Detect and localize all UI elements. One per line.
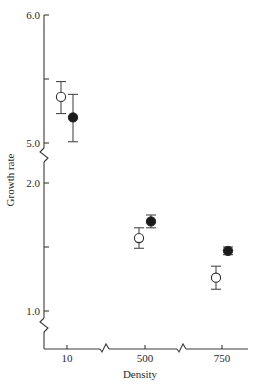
x-tick-label-750: 750 [214,352,231,364]
y-axis-break-lower [40,318,48,332]
data-points [56,82,233,290]
open-point-750 [211,266,221,289]
x-axis-break-1 [100,344,109,352]
y-axis-break-upper [40,148,48,162]
filled-point-500 [146,215,156,228]
growth-rate-chart: 6.0 5.0 2.0 1.0 Growth rate 10 500 750 D… [0,0,258,391]
x-tick-label-10: 10 [62,352,74,364]
open-point-10 [56,82,66,114]
x-axis-break-2 [177,344,186,352]
open-circle-marker [211,273,220,282]
open-circle-marker [56,92,65,101]
y-tick-label-2: 2.0 [26,177,40,189]
filled-point-750 [223,246,233,255]
y-tick-label-1: 1.0 [26,305,40,317]
y-axis: 6.0 5.0 2.0 1.0 Growth rate [4,9,49,349]
x-tick-label-500: 500 [137,352,154,364]
filled-circle-marker [68,113,77,122]
x-axis-label: Density [123,368,158,380]
x-axis: 10 500 750 Density [44,344,248,380]
filled-point-10 [68,94,78,141]
filled-circle-marker [146,217,155,226]
y-axis-label: Growth rate [4,153,16,206]
y-tick-label-6: 6.0 [26,9,40,21]
filled-circle-marker [223,246,232,255]
open-circle-marker [134,233,143,242]
open-point-500 [134,228,144,248]
chart-svg: 6.0 5.0 2.0 1.0 Growth rate 10 500 750 D… [0,0,258,391]
y-tick-label-5: 5.0 [26,137,40,149]
